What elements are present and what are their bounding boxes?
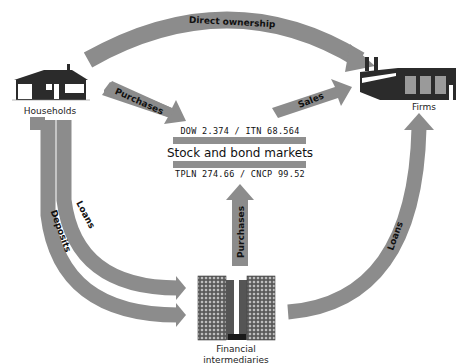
intermediaries-label-line2: intermediaries	[203, 355, 269, 364]
households-label: Households	[24, 106, 77, 116]
bank-building-icon	[198, 276, 275, 340]
factory-icon	[360, 57, 456, 100]
intermediaries-label-line1: Financial	[216, 344, 255, 354]
direct-ownership-arrow: Direct ownership	[88, 15, 375, 72]
purchases-households-arrow: Purchases	[102, 81, 186, 124]
markets-label: Stock and bond markets	[167, 146, 313, 160]
stock-bond-markets: DOW 2.374 / ITN 68.564 Stock and bond ma…	[167, 126, 313, 179]
firms-label: Firms	[412, 102, 436, 112]
house-icon	[12, 64, 90, 100]
sales-arrow: Sales	[272, 79, 352, 118]
loans-firms-arrow: Loans	[288, 113, 434, 312]
ticker-top: DOW 2.374 / ITN 68.564	[180, 126, 299, 136]
purchases-intermediaries-label: Purchases	[236, 206, 246, 258]
deposits-arrow: Deposits	[30, 117, 186, 327]
financial-flow-diagram: Direct ownership Purchases Sales Househo…	[0, 0, 469, 364]
purchases-intermediaries-arrow: Purchases	[226, 184, 254, 266]
ticker-bottom: TPLN 274.66 / CNCP 99.52	[175, 169, 305, 179]
